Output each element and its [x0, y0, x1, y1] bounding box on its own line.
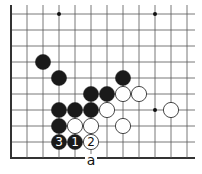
white-stone	[115, 118, 130, 133]
point-labels: a	[87, 152, 96, 168]
star-point-icon	[57, 12, 61, 16]
white-stone	[99, 102, 114, 117]
white-stone	[131, 86, 146, 101]
black-stone	[115, 70, 130, 85]
black-stone	[51, 118, 66, 133]
move-number: 1	[71, 135, 79, 149]
star-point-icon	[153, 12, 157, 16]
white-stone	[67, 118, 82, 133]
black-stone	[83, 102, 98, 117]
point-label-a: a	[87, 152, 96, 168]
go-board-diagram: 312 a	[0, 0, 202, 174]
black-stone	[67, 102, 82, 117]
star-point-icon	[153, 108, 157, 112]
move-number: 3	[55, 135, 63, 149]
white-stone	[115, 86, 130, 101]
black-stone	[99, 86, 114, 101]
board-grid	[11, 5, 195, 159]
black-stone-1: 1	[67, 134, 82, 149]
black-stone-3: 3	[51, 134, 66, 149]
black-stone	[51, 102, 66, 117]
move-number: 2	[87, 135, 95, 149]
black-stone	[35, 54, 50, 69]
white-stone	[83, 118, 98, 133]
black-stone	[83, 86, 98, 101]
black-stone	[51, 70, 66, 85]
white-stone-2: 2	[83, 134, 98, 149]
white-stone	[163, 102, 178, 117]
